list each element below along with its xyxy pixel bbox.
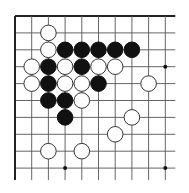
star-point <box>63 166 67 170</box>
white-stone <box>91 59 107 75</box>
white-stone <box>57 76 73 92</box>
black-stone <box>41 59 57 75</box>
black-stone <box>74 59 90 75</box>
star-point <box>163 65 167 69</box>
white-stone <box>74 93 90 109</box>
white-stone <box>57 59 73 75</box>
white-stone <box>107 127 123 143</box>
white-stone <box>124 110 140 126</box>
white-stone <box>24 76 40 92</box>
white-stone <box>41 25 57 41</box>
black-stone <box>91 76 107 92</box>
black-stone <box>57 42 73 58</box>
star-point <box>163 166 167 170</box>
black-stone <box>107 42 123 58</box>
black-stone <box>41 93 57 109</box>
black-stone <box>57 110 73 126</box>
white-stone <box>41 143 57 159</box>
black-stone <box>124 42 140 58</box>
black-stone <box>74 42 90 58</box>
go-board <box>0 0 189 193</box>
white-stone <box>74 143 90 159</box>
black-stone <box>91 42 107 58</box>
white-stone <box>41 42 57 58</box>
black-stone <box>57 93 73 109</box>
white-stone <box>24 59 40 75</box>
stones <box>24 25 157 159</box>
white-stone <box>74 76 90 92</box>
white-stone <box>141 76 157 92</box>
grid-lines <box>15 16 175 180</box>
white-stone <box>107 59 123 75</box>
black-stone <box>41 76 57 92</box>
